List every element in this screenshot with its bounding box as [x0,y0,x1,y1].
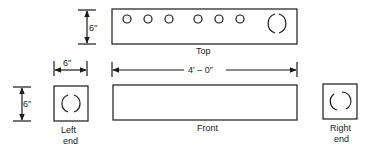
orthographic-drawing: 6″ Top 6″ 4′ – 0″ 6″ [0,0,369,152]
hole-6 [236,15,244,23]
left-end-view [54,86,88,121]
large-opening-right-arc [279,14,286,33]
end-height-label: 6″ [23,99,32,109]
end-height-dimension: 6″ [13,87,36,121]
hole-4 [194,15,202,23]
end-width-label: 6″ [63,58,72,68]
top-height-label: 6″ [89,23,98,33]
front-view [113,85,297,120]
top-view [112,9,297,44]
left-end-label-line1: Left [61,125,77,135]
right-end-label-line1: Right [330,123,352,133]
hole-2 [144,15,152,23]
front-view-label: Front [197,123,219,133]
overall-length-dimension: 4′ – 0″ [112,62,297,77]
right-end-label-line2: end [334,134,349,144]
hole-1 [123,15,131,23]
hole-3 [165,15,173,23]
large-opening-left-arc [268,14,275,33]
right-end-view [323,84,357,119]
top-view-label: Top [196,46,211,56]
left-end-label-line2: end [63,136,78,146]
end-width-dimension: 6″ [54,58,87,76]
top-height-dimension: 6″ [78,10,103,44]
hole-5 [215,15,223,23]
overall-length-label: 4′ – 0″ [188,65,214,75]
